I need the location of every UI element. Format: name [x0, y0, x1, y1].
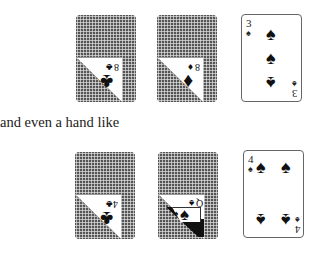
rank-index: 4: [113, 199, 118, 209]
card-8-clubs-peeled: 8 ♣ ♣: [76, 15, 136, 102]
card-4-clubs-peeled: 4 ♣ ♣: [75, 152, 135, 239]
card-3-spades: 3 ♠ ♠ ♠ ♠ ♠ 3: [241, 14, 302, 102]
spade-icon: ♠: [281, 211, 291, 229]
rank-index: 4: [295, 225, 301, 235]
rank-index: 8: [195, 62, 200, 72]
spade-icon: ♠: [189, 198, 194, 208]
spade-icon: ♠: [266, 49, 276, 67]
spade-icon: ♠: [281, 158, 291, 176]
spade-icon: ♠: [266, 25, 276, 43]
club-icon: ♣: [100, 72, 113, 92]
card-8-diamonds-peeled: 8 ♦ ♦: [157, 15, 217, 102]
spade-icon: ♠: [174, 209, 178, 219]
card-4-spades: 4 ♠ ♠ ♠ ♠ ♠ ♠ 4: [243, 150, 304, 238]
spade-icon: ♠: [266, 74, 276, 92]
club-icon: ♣: [100, 209, 113, 229]
spade-icon: ♠: [246, 28, 251, 38]
card-q-spades-peeled: Q ♠ ♠ ♠: [158, 152, 218, 239]
spade-icon: ♠: [256, 158, 266, 176]
rank-index: 4: [248, 154, 254, 164]
rank-index: 3: [292, 89, 298, 99]
diamond-icon: ♦: [183, 72, 193, 92]
spade-icon: ♠: [180, 205, 189, 225]
caption-text: and even a hand like: [0, 114, 119, 131]
rank-index: Q: [196, 198, 203, 208]
rank-index: 8: [114, 62, 119, 72]
rank-index: 3: [246, 18, 252, 28]
spade-icon: ♠: [248, 164, 253, 174]
spade-icon: ♠: [256, 211, 266, 229]
